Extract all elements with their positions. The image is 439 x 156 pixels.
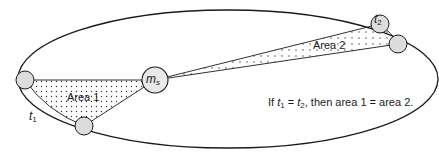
time-label-2: t2 — [374, 13, 382, 27]
caption-equals: = — [285, 96, 298, 108]
area-2-label: Area 2 — [313, 40, 345, 51]
sun-label: ms — [146, 73, 160, 87]
sun-label-main: m — [146, 72, 156, 86]
planet-position-2 — [75, 117, 93, 135]
time-1-sub: 1 — [32, 115, 36, 124]
sun-label-sub: s — [156, 78, 160, 87]
planet-position-1 — [16, 71, 34, 89]
caption-prefix: If — [268, 96, 277, 108]
area-1-label: Area 1 — [67, 92, 99, 103]
planet-position-4 — [389, 35, 407, 53]
time-2-sub: 2 — [377, 18, 381, 27]
caption: If t1 = t2, then area 1 = area 2. — [268, 97, 413, 110]
caption-suffix: , then area 1 = area 2. — [305, 96, 414, 108]
area-2-region — [155, 24, 398, 80]
time-label-1: t1 — [29, 110, 37, 124]
